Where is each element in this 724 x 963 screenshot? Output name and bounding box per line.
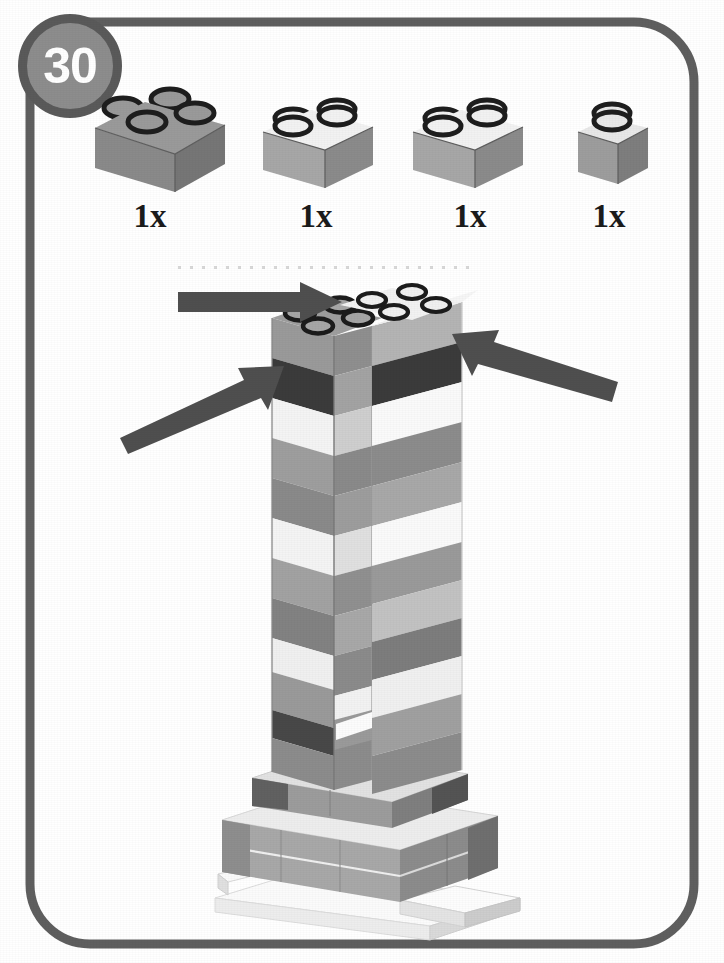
placement-arrow-left [120, 366, 284, 454]
parts-bin-item: 1x [85, 80, 235, 255]
lego-brick-2x1-icon [245, 80, 395, 200]
part-quantity-label: 1x [241, 198, 391, 235]
parts-bin-item: 1x [395, 80, 545, 255]
lego-brick-2x2-icon [85, 80, 235, 200]
placement-arrows [0, 250, 724, 950]
parts-bin-item: 1x [540, 80, 690, 255]
part-quantity-label: 1x [534, 198, 684, 235]
part-quantity-label: 1x [75, 198, 225, 235]
placement-arrow-top [178, 282, 342, 322]
parts-bin-item: 1x [245, 80, 395, 255]
model-illustration [0, 250, 724, 950]
lego-brick-1x1-icon [540, 80, 690, 200]
instruction-page: 30 1x [0, 0, 724, 963]
part-quantity-label: 1x [395, 198, 545, 235]
lego-brick-2x1-icon [395, 80, 545, 200]
placement-arrow-right [452, 330, 618, 402]
parts-bin: 1x 1x [85, 80, 685, 255]
